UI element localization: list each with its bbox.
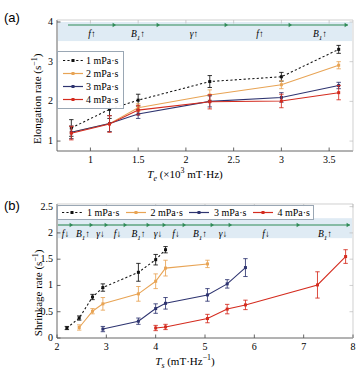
panel-b-y-tick: 0 <box>25 332 53 343</box>
panel-a-annotation-label-1: f↑ <box>78 29 106 39</box>
panel-a-annotation-label-3: γ↑ <box>180 29 208 39</box>
legend-line-sample <box>61 207 83 218</box>
panel-b-legend-item-2[interactable]: 2 mPa·s <box>125 207 184 218</box>
legend-line-sample <box>188 207 210 218</box>
panel-a-legend-item-2[interactable]: 2 mPa·s <box>62 67 119 80</box>
panel-a-x-tick: 2.5 <box>220 154 248 165</box>
panel-b-x-tick: 5 <box>191 341 219 352</box>
legend-line-sample <box>62 94 84 105</box>
panel-a-legend-item-label: 2 mPa·s <box>86 68 119 79</box>
panel-a-legend-item-label: 4 mPa·s <box>86 94 119 105</box>
panel-a-legend-item-3[interactable]: 3 mPa·s <box>62 80 119 93</box>
panel-a-x-tick: 3 <box>267 154 295 165</box>
panel-b-series-2 <box>77 260 210 330</box>
legend-line-sample <box>125 207 147 218</box>
panel-b-x-tick: 4 <box>142 341 170 352</box>
panel-a-legend-item-1[interactable]: 1 mPa·s <box>62 54 119 67</box>
panel-b-x-tick: 8 <box>339 341 364 352</box>
panel-b-series-4 <box>153 250 347 331</box>
figure-root: (a) Elongation rate (s−1) Te (×103 mT·Hz… <box>0 0 364 382</box>
panel-b-legend-item-4[interactable]: 4 mPa·s <box>252 207 311 218</box>
panel-b-annotation-label-11: B1↑ <box>311 229 339 242</box>
panel-a-legend: 1 mPa·s2 mPa·s3 mPa·s4 mPa·s <box>57 51 124 109</box>
panel-a-y-tick: 1 <box>25 135 53 146</box>
panel-b-y-tick: 2.5 <box>25 201 53 212</box>
legend-line-sample <box>62 55 84 66</box>
panel-b-series-1 <box>65 247 168 330</box>
panel-b-y-tick: 1 <box>25 279 53 290</box>
legend-line-sample <box>62 68 84 79</box>
panel-a-x-tick: 1 <box>76 154 104 165</box>
legend-line-sample <box>62 81 84 92</box>
panel-a-legend-item-label: 1 mPa·s <box>86 55 119 66</box>
panel-b-legend-item-label: 4 mPa·s <box>278 207 311 218</box>
panel-b-series-3 <box>101 259 248 332</box>
panel-b-x-tick: 7 <box>290 341 318 352</box>
panel-a-x-tick: 2 <box>172 154 200 165</box>
panel-b-legend-item-label: 3 mPa·s <box>214 207 247 218</box>
panel-b-x-tick: 3 <box>92 341 120 352</box>
panel-a: (a) Elongation rate (s−1) Te (×103 mT·Hz… <box>0 0 364 190</box>
panel-b-x-tick: 6 <box>240 341 268 352</box>
panel-b-y-tick: 0.5 <box>25 306 53 317</box>
panel-b-legend: 1 mPa·s2 mPa·s3 mPa·s4 mPa·s <box>57 205 314 220</box>
legend-line-sample <box>252 207 274 218</box>
panel-b-legend-item-label: 1 mPa·s <box>87 207 120 218</box>
panel-b-annotation-label-9: γ↓ <box>209 229 237 239</box>
panel-a-annotation-label-4: f↑ <box>246 29 274 39</box>
panel-a-y-tick: 2 <box>25 95 53 106</box>
panel-a-x-tick: 1.5 <box>124 154 152 165</box>
panel-b-legend-item-3[interactable]: 3 mPa·s <box>188 207 247 218</box>
panel-b-y-tick: 2 <box>25 227 53 238</box>
panel-a-legend-item-4[interactable]: 4 mPa·s <box>62 93 119 106</box>
panel-a-annotation-label-2: B1↑ <box>124 29 152 42</box>
panel-b-legend-item-1[interactable]: 1 mPa·s <box>61 207 120 218</box>
panel-b-legend-item-label: 2 mPa·s <box>151 207 184 218</box>
panel-a-x-tick: 3.5 <box>315 154 343 165</box>
panel-a-annotation-label-5: B1↑ <box>306 29 334 42</box>
panel-a-legend-item-label: 3 mPa·s <box>86 81 119 92</box>
panel-b: (b) Shrinkage rate (s−1) Ts (mT·Hz−1) 1 … <box>0 190 364 382</box>
panel-b-y-tick: 1.5 <box>25 253 53 264</box>
panel-b-annotation-label-10: f↓ <box>252 229 280 239</box>
panel-a-y-tick: 3 <box>25 56 53 67</box>
panel-a-y-tick: 4 <box>25 16 53 27</box>
